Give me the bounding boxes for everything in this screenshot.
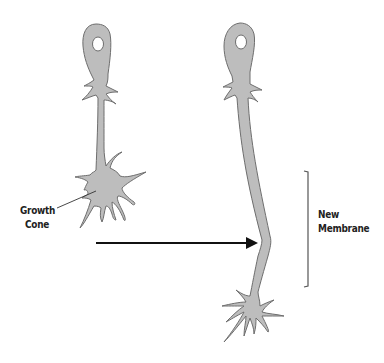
time-arrow <box>96 237 258 249</box>
new-membrane-label-line1: New <box>318 207 378 221</box>
neuron-before <box>75 24 146 228</box>
growth-cone-label-line2: Cone <box>20 217 54 231</box>
neuron-after <box>222 23 284 342</box>
new-membrane-bracket <box>304 171 308 287</box>
neuron-after-soma <box>222 23 284 342</box>
new-membrane-label-line2: Membrane <box>318 221 378 235</box>
neuron-before-soma <box>75 24 146 228</box>
growth-cone-label: Growth Cone <box>20 203 54 231</box>
diagram-canvas <box>0 0 384 363</box>
neuron-before-nucleus <box>93 37 104 51</box>
arrowhead-icon <box>246 237 258 249</box>
neuron-after-nucleus <box>236 35 247 49</box>
growth-cone-label-line1: Growth <box>20 203 54 217</box>
new-membrane-label: New Membrane <box>318 207 378 235</box>
